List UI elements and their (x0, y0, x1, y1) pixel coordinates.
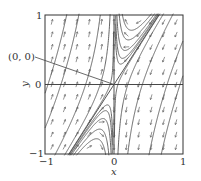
annotation-origin-label: (0, 0) (8, 51, 35, 62)
trajectory-curve (115, 14, 158, 64)
trajectory-curve (45, 14, 67, 93)
trajectory-curve (69, 105, 112, 155)
y-axis-label: y (19, 81, 30, 88)
y-tick-0: 0 (35, 79, 41, 90)
trajectory-curve (161, 76, 183, 155)
y-tick-1: 1 (36, 10, 42, 21)
trajectory-curve (149, 41, 183, 155)
phase-portrait-chart: (0, 0) 1 0 −1 y −1 0 1 x (0, 0, 201, 181)
x-tick-neg1: −1 (39, 156, 54, 167)
x-tick-1: 1 (180, 156, 186, 167)
x-axis-label: x (111, 166, 117, 177)
